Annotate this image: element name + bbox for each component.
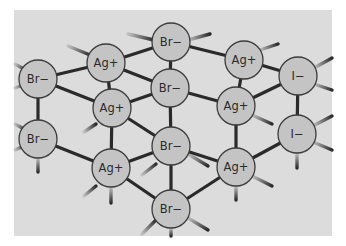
ion-label: Ag+ <box>94 56 119 70</box>
ion-bromide: Br− <box>19 120 57 158</box>
ion-bromide: Br− <box>152 127 190 165</box>
ion-label: Br− <box>27 132 49 146</box>
ion-iodide: I− <box>278 115 316 153</box>
ion-silver: Ag+ <box>87 44 125 82</box>
ion-label: I− <box>291 69 304 83</box>
ion-bromide: Br− <box>19 60 57 98</box>
ion-iodide: I− <box>279 57 317 95</box>
ion-label: Br− <box>160 202 182 216</box>
ion-label: Ag+ <box>224 99 249 113</box>
ion-label: Br− <box>160 35 182 49</box>
ion-label: Ag+ <box>99 161 124 175</box>
ion-label: Br− <box>160 139 182 153</box>
ion-silver: Ag+ <box>92 149 130 187</box>
ion-label: Br− <box>27 72 49 86</box>
ion-label: Ag+ <box>100 101 125 115</box>
ion-label: Ag+ <box>232 53 257 67</box>
ion-label: I− <box>290 127 303 141</box>
ion-label: Br− <box>159 81 181 95</box>
crystal-lattice-diagram: Br−Br−Ag+Ag+Ag+Br−Br−Br−Br−Ag+Ag+Ag+I−I− <box>0 0 346 246</box>
ion-bromide: Br− <box>152 190 190 228</box>
ion-silver: Ag+ <box>217 87 255 125</box>
ion-silver: Ag+ <box>217 148 255 186</box>
ion-silver: Ag+ <box>225 41 263 79</box>
ion-label: Ag+ <box>224 160 249 174</box>
ion-bromide: Br− <box>152 23 190 61</box>
ion-bromide: Br− <box>151 69 189 107</box>
ion-silver: Ag+ <box>93 89 131 127</box>
